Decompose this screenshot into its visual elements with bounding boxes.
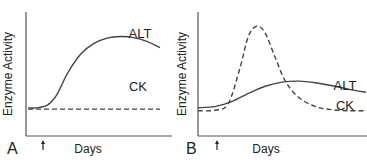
series-label-ck: CK — [336, 98, 354, 113]
arrow-marker-icon — [215, 140, 219, 150]
series-label-alt: ALT — [129, 26, 152, 41]
y-axis-label: Enzyme Activity — [175, 32, 189, 116]
x-axis-label: Days — [74, 142, 101, 156]
panel-label: A — [7, 140, 18, 157]
y-axis-label: Enzyme Activity — [1, 32, 15, 116]
x-axis-label: Days — [252, 142, 279, 156]
arrow-marker-icon — [41, 140, 45, 150]
panel-a: ALTCKEnzyme ActivityDaysA — [1, 12, 172, 157]
chart-figure: ALTCKEnzyme ActivityDaysA ALTCKEnzyme Ac… — [0, 0, 367, 160]
panel-label: B — [186, 140, 197, 157]
series-label-alt: ALT — [334, 78, 357, 93]
panel-b: ALTCKEnzyme ActivityDaysB — [175, 12, 367, 157]
series-label-ck: CK — [129, 79, 147, 94]
series-line-alt — [28, 37, 160, 109]
